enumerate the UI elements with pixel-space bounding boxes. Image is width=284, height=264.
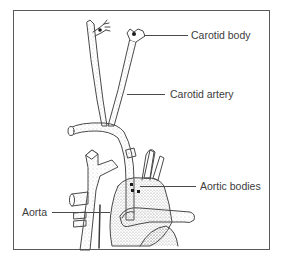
left-carotid-body-dot <box>98 28 102 32</box>
right-branch-vessels <box>142 150 164 180</box>
label-aorta: Aorta <box>22 207 47 218</box>
label-carotid-artery: Carotid artery <box>170 89 234 100</box>
left-carotid-branch <box>87 20 110 126</box>
leader-aorta <box>52 212 110 213</box>
leader-aortic-bodies <box>140 186 196 187</box>
right-carotid-branch <box>108 29 145 126</box>
aortic-body-dot-1 <box>130 183 133 186</box>
label-aortic-bodies: Aortic bodies <box>200 181 261 192</box>
leader-carotid-body <box>144 35 188 36</box>
aortic-body-dot-3 <box>137 190 140 193</box>
leader-carotid-artery <box>127 94 165 95</box>
label-carotid-body: Carotid body <box>191 30 251 41</box>
aortic-body-dot-2 <box>131 189 134 192</box>
carotid-body-dot <box>132 32 136 36</box>
